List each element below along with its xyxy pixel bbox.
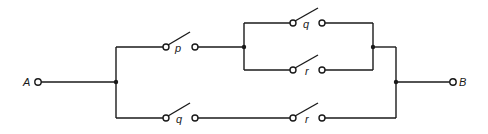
switch-r-lower: r [290,103,325,125]
terminal-a-label: A [22,76,30,88]
switch-p: p [163,32,198,54]
terminal-a: A [22,76,41,88]
switch-q-inner-label: q [303,18,310,30]
switch-q-inner: q [290,8,325,30]
switch-q-lower-label: q [176,113,183,125]
terminal-b-label: B [459,76,466,88]
terminal-b: B [450,76,467,88]
switch-p-label: p [174,42,181,54]
switch-r-lower-label: r [305,113,310,125]
switch-r-inner-label: r [305,65,310,77]
circuit-diagram: A p q r B [0,0,488,134]
switch-q-lower: q [163,103,198,125]
switch-r-inner: r [290,55,325,77]
